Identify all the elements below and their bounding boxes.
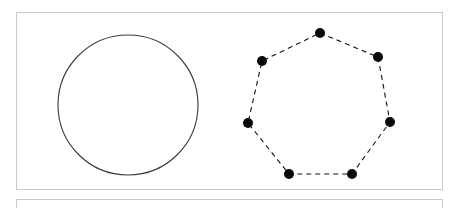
- figure-panel: [16, 12, 443, 190]
- page-root: [0, 0, 458, 208]
- next-panel-top-edge: [16, 199, 443, 208]
